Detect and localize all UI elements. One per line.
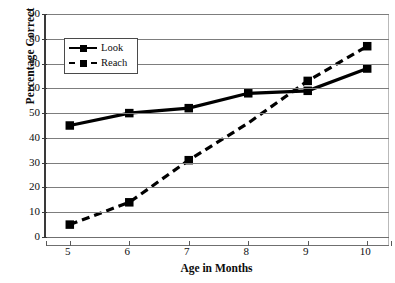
legend-item-reach[interactable]: Reach bbox=[68, 56, 134, 71]
y-tick-label: 0 bbox=[16, 231, 40, 242]
data-point-marker bbox=[125, 198, 134, 207]
data-point-marker bbox=[363, 42, 372, 51]
x-tick-label: 8 bbox=[231, 245, 261, 257]
x-tick-label: 6 bbox=[112, 245, 142, 257]
chart-legend: Look Reach bbox=[64, 38, 138, 74]
series-line-look bbox=[70, 69, 367, 126]
x-axis-line bbox=[46, 245, 389, 246]
data-point-marker bbox=[303, 77, 312, 86]
gridline bbox=[46, 138, 389, 139]
legend-key-reach-icon bbox=[68, 57, 98, 70]
y-tick-label: 10 bbox=[16, 206, 40, 217]
legend-label-reach: Reach bbox=[98, 58, 127, 69]
x-tick-label: 10 bbox=[350, 245, 380, 257]
chart-figure: Percentage Correct 0102030405060708090 L… bbox=[0, 0, 395, 283]
chart-title-cropped bbox=[0, 0, 395, 5]
y-tick-mark bbox=[42, 39, 47, 40]
x-axis-title: Age in Months bbox=[44, 262, 389, 274]
data-point-marker bbox=[66, 220, 75, 229]
x-tick-label: 5 bbox=[53, 245, 83, 257]
y-tick-label: 70 bbox=[16, 58, 40, 69]
y-tick-mark bbox=[42, 212, 47, 213]
y-tick-mark bbox=[42, 88, 47, 89]
data-point-marker bbox=[363, 64, 372, 73]
y-tick-mark bbox=[42, 187, 47, 188]
gridline bbox=[46, 212, 389, 213]
data-point-marker bbox=[244, 89, 253, 98]
y-tick-mark bbox=[42, 237, 47, 238]
y-tick-label: 50 bbox=[16, 107, 40, 118]
y-tick-mark bbox=[42, 163, 47, 164]
gridline bbox=[46, 88, 389, 89]
y-tick-mark bbox=[42, 64, 47, 65]
y-tick-label: 90 bbox=[16, 8, 40, 19]
legend-item-look[interactable]: Look bbox=[68, 41, 134, 56]
gridline bbox=[46, 187, 389, 188]
y-tick-label: 20 bbox=[16, 181, 40, 192]
legend-label-look: Look bbox=[98, 43, 123, 54]
y-tick-labels: 0102030405060708090 bbox=[14, 0, 40, 283]
y-tick-label: 30 bbox=[16, 157, 40, 168]
y-tick-mark bbox=[42, 113, 47, 114]
gridline bbox=[46, 14, 389, 15]
legend-key-look-icon bbox=[68, 42, 98, 55]
x-axis-end-tick bbox=[391, 241, 392, 246]
y-tick-mark bbox=[42, 14, 47, 15]
y-tick-mark bbox=[42, 138, 47, 139]
data-point-marker bbox=[66, 121, 75, 130]
data-point-marker bbox=[185, 104, 194, 113]
gridline bbox=[46, 113, 389, 114]
y-tick-label: 40 bbox=[16, 132, 40, 143]
x-tick-label: 7 bbox=[172, 245, 202, 257]
x-tick-label: 9 bbox=[291, 245, 321, 257]
gridline bbox=[46, 163, 389, 164]
y-tick-label: 60 bbox=[16, 82, 40, 93]
x-axis-end-tick bbox=[46, 241, 47, 246]
y-tick-label: 80 bbox=[16, 33, 40, 44]
gridline bbox=[46, 237, 389, 238]
